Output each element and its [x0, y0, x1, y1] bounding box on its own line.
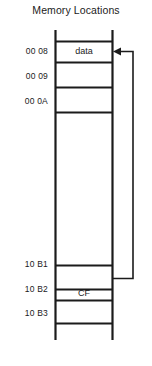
address-label-0009: 00 09: [6, 71, 48, 81]
pointer-arrowhead-icon: [113, 48, 121, 56]
address-label-10b1: 10 B1: [6, 259, 48, 269]
address-label-0008: 00 08: [6, 46, 48, 56]
cell-value-10b2: CF: [55, 288, 113, 298]
address-label-10b2: 10 B2: [6, 284, 48, 294]
pointer-connector-line: [113, 52, 133, 279]
address-label-000a: 00 0A: [6, 96, 48, 106]
memory-diagram-canvas: Memory Locations 00 08 00 09 00 0A 10 B1…: [0, 0, 152, 366]
cell-value-0008: data: [55, 46, 113, 56]
address-label-10b3: 10 B3: [6, 308, 48, 318]
